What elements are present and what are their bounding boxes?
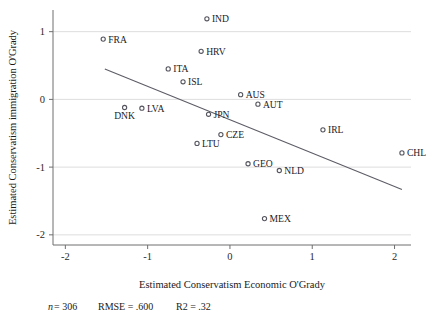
data-point-marker[interactable]: [239, 93, 243, 97]
data-point-label: IRL: [328, 124, 344, 135]
data-point-label: JPN: [214, 109, 230, 120]
data-point-label: AUT: [263, 99, 283, 110]
data-point-label: LTU: [202, 138, 220, 149]
data-point-marker[interactable]: [277, 168, 281, 172]
data-point-marker[interactable]: [195, 141, 199, 145]
data-point-marker[interactable]: [205, 17, 209, 21]
data-point-marker[interactable]: [256, 102, 260, 106]
x-axis-title: Estimated Conservatism Economic O'Grady: [139, 279, 326, 290]
y-axis-title: Estimated Conservatism immigration O'Gra…: [7, 29, 18, 225]
footnote-n-value: = 306: [54, 301, 77, 312]
data-point-marker[interactable]: [400, 151, 404, 155]
x-tick-label: -2: [61, 251, 70, 262]
data-point-marker[interactable]: [262, 216, 266, 220]
y-tick-label: -1: [36, 162, 45, 173]
data-point-label: ITA: [173, 63, 188, 74]
data-point-label: IND: [212, 13, 229, 24]
data-point-label: ISL: [188, 76, 203, 87]
plot-canvas: 10-1-2-2-1012INDFRAHRVITAISLAUSAUTDNKLVA…: [0, 0, 429, 317]
footnote-rmse: RMSE = .600: [98, 301, 153, 312]
data-point-label: FRA: [108, 34, 127, 45]
regression-fit-line: [105, 69, 402, 190]
data-point-marker[interactable]: [166, 67, 170, 71]
data-point-marker[interactable]: [140, 106, 144, 110]
data-point-marker[interactable]: [101, 37, 105, 41]
x-tick-label: 1: [310, 251, 315, 262]
data-point-label: DNK: [114, 110, 135, 121]
footnote-r2: R2 = .32: [176, 301, 211, 312]
x-tick-label: 0: [227, 251, 232, 262]
data-point-marker[interactable]: [199, 49, 203, 53]
x-tick-label: -1: [143, 251, 152, 262]
y-tick-label: -2: [36, 229, 45, 240]
data-point-label: HRV: [206, 46, 226, 57]
footnote-n-symbol: n: [48, 301, 53, 312]
data-point-marker[interactable]: [206, 112, 210, 116]
data-point-marker[interactable]: [219, 133, 223, 137]
data-point-marker[interactable]: [321, 128, 325, 132]
x-tick-label: 2: [392, 251, 397, 262]
data-point-label: GEO: [253, 158, 273, 169]
data-point-label: LVA: [147, 103, 165, 114]
data-point-marker[interactable]: [246, 162, 250, 166]
scatter-plot-figure: 10-1-2-2-1012INDFRAHRVITAISLAUSAUTDNKLVA…: [0, 0, 429, 317]
data-point-label: MEX: [270, 213, 291, 224]
y-tick-label: 1: [40, 26, 45, 37]
data-point-label: NLD: [284, 165, 304, 176]
data-point-marker[interactable]: [181, 80, 185, 84]
data-point-label: CZE: [226, 129, 244, 140]
data-point-label: CHL: [407, 147, 426, 158]
y-tick-label: 0: [40, 94, 45, 105]
